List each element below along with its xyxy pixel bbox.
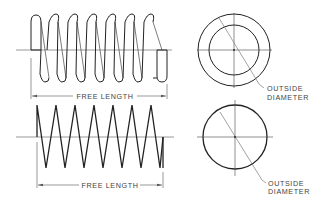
outside-diameter-label-top-2: DIAMETER: [267, 93, 309, 102]
spring-drawing: FREE LENGTH OUTSIDE DIAMETER FREE LENGTH…: [0, 0, 326, 210]
simplified-spring: [16, 105, 174, 168]
free-length-label-bottom: FREE LENGTH: [82, 181, 139, 190]
end-view-simplified: [197, 100, 273, 183]
free-length-label-top: FREE LENGTH: [77, 92, 134, 101]
end-view-detailed: [197, 13, 272, 88]
leader-line-bottom: [220, 112, 262, 180]
outside-diameter-label-bottom-2: DIAMETER: [268, 187, 310, 196]
detailed-spring: [16, 14, 172, 82]
